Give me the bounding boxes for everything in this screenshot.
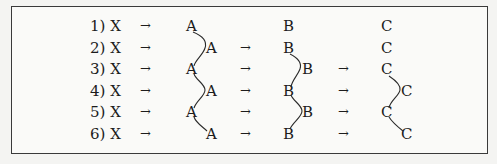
connector-a bbox=[193, 32, 207, 131]
connector-b bbox=[290, 54, 302, 129]
connector-curves bbox=[0, 0, 497, 164]
connector-c bbox=[389, 76, 403, 131]
